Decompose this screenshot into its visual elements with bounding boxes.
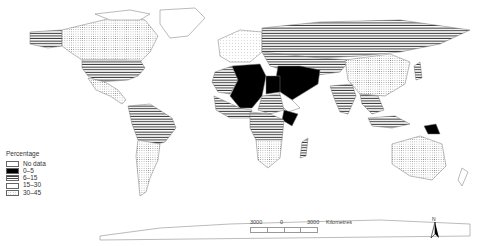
region-madagascar — [300, 138, 308, 158]
region-south-america-north — [128, 104, 176, 146]
world-map — [0, 0, 483, 251]
region-sudan — [258, 94, 284, 114]
region-india — [330, 84, 356, 114]
region-egypt — [266, 76, 280, 94]
region-indonesia — [368, 116, 410, 128]
region-greenland — [160, 8, 205, 38]
region-south-america-south — [136, 140, 160, 196]
region-mexico — [88, 78, 126, 104]
legend-swatch — [6, 161, 19, 167]
region-canada — [62, 16, 158, 62]
legend-label: 15–30 — [23, 182, 41, 189]
scale-bar: 3000 0 3000 Kilometres — [250, 219, 370, 233]
legend-swatch — [6, 168, 19, 174]
scale-bar-graphic — [250, 227, 318, 233]
legend-item-30-45: 30–45 — [6, 189, 46, 196]
legend-swatch — [6, 183, 19, 189]
region-russia — [262, 20, 470, 60]
map-legend: Percentage No data 0–5 6–15 15–30 30–45 — [6, 151, 46, 196]
region-australia — [392, 136, 446, 180]
legend-label: 30–45 — [23, 190, 41, 197]
region-papua-new-guinea — [424, 124, 440, 134]
region-new-zealand — [458, 168, 468, 186]
region-southern-africa — [256, 140, 282, 168]
north-arrow-icon — [428, 218, 442, 240]
scale-label-zero: 0 — [280, 219, 283, 225]
region-europe-west — [218, 30, 262, 62]
legend-swatch — [6, 175, 19, 181]
region-horn-of-africa — [282, 110, 298, 126]
scale-unit: Kilometres — [326, 219, 352, 225]
scale-label-left: 3000 — [250, 219, 262, 225]
region-arctic-islands — [95, 10, 150, 20]
region-china — [345, 54, 410, 96]
legend-title: Percentage — [6, 151, 46, 158]
region-japan — [414, 62, 422, 80]
region-alaska — [30, 30, 62, 48]
region-southeast-asia — [360, 94, 384, 114]
scale-label-right: 3000 — [307, 219, 319, 225]
legend-swatch — [6, 190, 19, 196]
